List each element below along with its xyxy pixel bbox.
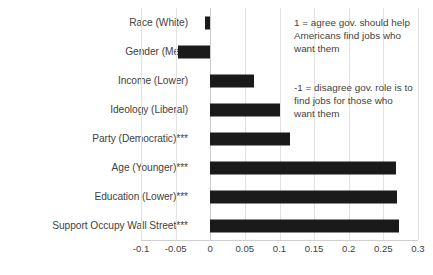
disagree-note-line: find jobs for those who <box>294 94 433 107</box>
bar-chart: Race (White) Gender (Men) Income (Lower)… <box>0 0 433 275</box>
bar <box>210 219 398 232</box>
agree-note: 1 = agree gov. should help Americans fin… <box>294 16 433 56</box>
agree-note-line: Americans find jobs who <box>294 29 433 42</box>
x-tick-label: 0.3 <box>411 243 424 254</box>
bar <box>205 16 211 29</box>
x-tick-label: 0.1 <box>273 243 286 254</box>
bar-row <box>141 124 418 153</box>
bar <box>210 74 254 87</box>
x-tick-label: 0.2 <box>342 243 355 254</box>
bar-row <box>141 153 418 182</box>
bar <box>210 161 396 174</box>
x-tick-label: 0 <box>208 243 213 254</box>
bar <box>210 190 397 203</box>
disagree-note: -1 = disagree gov. role is to find jobs … <box>294 81 433 121</box>
bar-row <box>141 182 418 211</box>
bar-row <box>141 211 418 240</box>
x-axis-line <box>141 240 418 241</box>
agree-note-line: want them <box>294 42 433 55</box>
x-tick-label: -0.1 <box>133 243 150 254</box>
x-tick-label: 0.05 <box>236 243 255 254</box>
x-tick-label: -0.05 <box>165 243 187 254</box>
agree-note-line: 1 = agree gov. should help <box>294 16 433 29</box>
disagree-note-line: want them <box>294 107 433 120</box>
x-tick-label: 0.25 <box>374 243 393 254</box>
x-axis-tick-labels: -0.1-0.0500.050.10.150.20.250.3 <box>141 243 418 259</box>
bar <box>210 103 279 116</box>
disagree-note-line: -1 = disagree gov. role is to <box>294 81 433 94</box>
bar <box>210 132 290 145</box>
bar <box>178 45 210 58</box>
x-tick-label: 0.15 <box>305 243 324 254</box>
